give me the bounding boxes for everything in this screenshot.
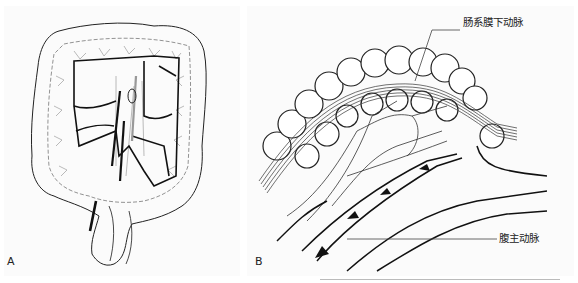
panel-letter-b: B [255, 255, 263, 268]
colon-illustration [4, 6, 240, 276]
divider-line [320, 279, 560, 280]
label-inferior-mesenteric-artery: 肠系膜下动脉 [463, 14, 523, 29]
panel-a-colon-drawing [4, 6, 240, 276]
label-abdominal-aorta: 腹主动脉 [499, 230, 539, 245]
panel-letter-a: A [7, 255, 15, 268]
